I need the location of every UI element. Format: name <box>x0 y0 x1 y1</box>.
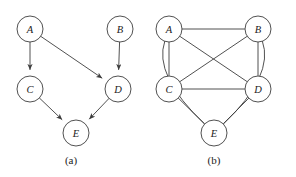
node-label-a-C: C <box>26 84 34 95</box>
figure-container: ABCDEABCDE (a)(b) <box>0 0 296 177</box>
edge-a-B-D <box>119 42 120 70</box>
node-label-b-C: C <box>165 84 173 95</box>
node-label-b-A: A <box>165 24 173 35</box>
node-label-a-D: D <box>113 84 122 95</box>
captions-layer: (a)(b) <box>65 154 221 167</box>
node-a-B[interactable]: B <box>107 16 133 42</box>
node-a-C[interactable]: C <box>17 76 43 102</box>
edge-a-A-D <box>41 36 102 78</box>
node-label-b-B: B <box>255 24 262 35</box>
edges-layer <box>30 29 265 124</box>
panel-caption-b: (b) <box>208 154 221 167</box>
edge-a-D-E <box>89 98 109 118</box>
edge-a-C-E <box>39 98 62 120</box>
node-label-a-A: A <box>26 24 34 35</box>
nodes-layer: ABCDEABCDE <box>17 16 271 146</box>
node-a-D[interactable]: D <box>105 76 131 102</box>
node-b-B[interactable]: B <box>245 16 271 42</box>
graph-figure-svg: ABCDEABCDE (a)(b) <box>0 0 296 177</box>
panel-caption-a: (a) <box>65 154 78 167</box>
node-label-a-B: B <box>117 24 124 35</box>
node-b-A[interactable]: A <box>156 16 182 42</box>
node-label-a-E: E <box>72 128 80 139</box>
node-b-D[interactable]: D <box>245 76 271 102</box>
node-label-b-D: D <box>253 84 262 95</box>
node-a-E[interactable]: E <box>63 120 89 146</box>
node-b-E[interactable]: E <box>201 120 227 146</box>
node-b-C[interactable]: C <box>156 76 182 102</box>
node-a-A[interactable]: A <box>17 16 43 42</box>
node-label-b-E: E <box>210 128 218 139</box>
